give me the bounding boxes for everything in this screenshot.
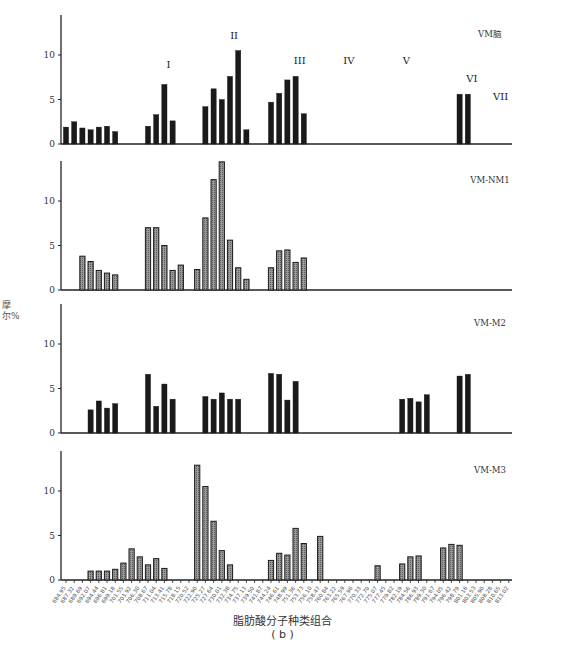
bar bbox=[457, 376, 462, 433]
bar bbox=[145, 228, 150, 290]
bar bbox=[457, 545, 462, 580]
bar bbox=[154, 115, 159, 144]
bar bbox=[154, 559, 159, 580]
bar bbox=[400, 399, 405, 433]
panel-VM-M2: 0510VM-M2 bbox=[44, 304, 512, 438]
group-label: V bbox=[402, 55, 411, 66]
group-label: VI bbox=[465, 73, 477, 84]
bar bbox=[408, 398, 413, 433]
bar bbox=[162, 384, 167, 433]
bar bbox=[244, 130, 249, 144]
y-tick-label: 0 bbox=[49, 575, 55, 585]
bar bbox=[203, 487, 208, 580]
bar bbox=[375, 566, 380, 580]
bar bbox=[400, 564, 405, 580]
group-label: III bbox=[294, 55, 306, 66]
bar bbox=[465, 94, 470, 144]
bar bbox=[236, 51, 241, 144]
bar bbox=[285, 80, 290, 144]
bar bbox=[416, 402, 421, 433]
bar bbox=[96, 270, 101, 290]
y-tick-label: 10 bbox=[44, 196, 56, 206]
bar bbox=[121, 563, 126, 580]
bar bbox=[227, 240, 232, 290]
bar bbox=[195, 270, 200, 290]
bar bbox=[293, 262, 298, 290]
bar bbox=[211, 521, 216, 580]
bar bbox=[268, 102, 273, 144]
bar bbox=[416, 556, 421, 580]
bar bbox=[145, 565, 150, 580]
bar bbox=[178, 265, 183, 290]
bar bbox=[145, 374, 150, 433]
bar bbox=[268, 373, 273, 433]
bar bbox=[465, 374, 470, 433]
bar bbox=[162, 84, 167, 144]
bar bbox=[285, 250, 290, 290]
bar bbox=[227, 76, 232, 144]
bar bbox=[277, 553, 282, 580]
bar bbox=[277, 251, 282, 290]
bar bbox=[219, 551, 224, 580]
bar bbox=[88, 571, 93, 580]
panel-VM-NM1: 0510VM-NM1 bbox=[44, 161, 512, 295]
bar bbox=[301, 544, 306, 580]
group-label: IV bbox=[343, 55, 355, 66]
bar bbox=[277, 93, 282, 144]
bar bbox=[293, 381, 298, 433]
bar bbox=[457, 94, 462, 144]
bar bbox=[162, 246, 167, 291]
bar bbox=[449, 544, 454, 580]
bar bbox=[88, 410, 93, 433]
bar bbox=[301, 114, 306, 144]
y-tick-label: 10 bbox=[44, 339, 56, 349]
x-axis-label: 脂肪酸分子种类组合 bbox=[0, 612, 565, 628]
bar bbox=[88, 262, 93, 290]
bar bbox=[441, 548, 446, 580]
y-tick-label: 0 bbox=[49, 285, 55, 295]
bar bbox=[145, 126, 150, 144]
bar bbox=[203, 218, 208, 290]
bar bbox=[195, 465, 200, 580]
bar bbox=[293, 76, 298, 144]
bar bbox=[211, 89, 216, 144]
bar bbox=[236, 399, 241, 433]
bar bbox=[96, 571, 101, 580]
bar bbox=[137, 557, 142, 580]
x-tick-labels: 684.95687.32689.69692.07694.44696.81699.… bbox=[51, 585, 510, 605]
bar bbox=[170, 270, 175, 290]
bar bbox=[96, 401, 101, 433]
bar bbox=[113, 569, 118, 580]
bar bbox=[72, 122, 77, 144]
bar bbox=[244, 279, 249, 290]
bar bbox=[285, 400, 290, 433]
y-tick-label: 0 bbox=[49, 139, 55, 149]
bar bbox=[170, 121, 175, 144]
bar bbox=[96, 127, 101, 144]
y-tick-label: 10 bbox=[44, 486, 56, 496]
bar bbox=[203, 397, 208, 433]
panel-title: VM-M3 bbox=[473, 465, 506, 475]
bar bbox=[301, 258, 306, 290]
group-label: VII bbox=[492, 91, 508, 102]
bar bbox=[104, 273, 109, 290]
bar bbox=[211, 180, 216, 290]
bar bbox=[219, 393, 224, 433]
bar bbox=[88, 130, 93, 144]
y-tick-label: 5 bbox=[49, 241, 55, 251]
bar bbox=[154, 406, 159, 433]
group-label: I bbox=[167, 59, 171, 70]
bar bbox=[268, 560, 273, 580]
bar bbox=[80, 128, 85, 144]
bar bbox=[113, 132, 118, 144]
y-tick-label: 5 bbox=[49, 384, 55, 394]
bar bbox=[227, 565, 232, 580]
bar bbox=[63, 127, 68, 144]
bar bbox=[424, 395, 429, 433]
bar bbox=[113, 275, 118, 290]
bar bbox=[104, 126, 109, 144]
bar bbox=[162, 568, 167, 580]
bar bbox=[293, 528, 298, 580]
bar bbox=[318, 536, 323, 580]
bar bbox=[227, 399, 232, 433]
